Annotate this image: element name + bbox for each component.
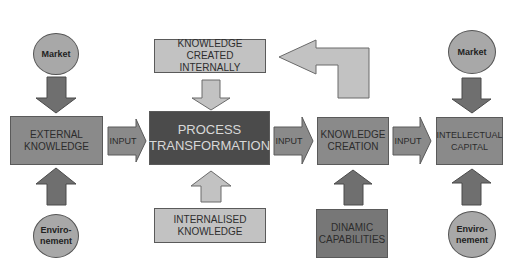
knowledge-creation-line1: KNOWLEDGE [320,129,385,141]
knowledge-creation-box: KNOWLEDGE CREATION [317,117,389,165]
external-knowledge-line1: EXTERNAL [24,129,89,141]
up-arrow-environment-right [452,169,491,205]
input-label-3: INPUT [393,136,423,146]
market-left-label: Market [41,49,70,60]
down-arrow-market-left [36,77,76,113]
environment-node-left: Enviro- nement [33,214,79,258]
knowledge-created-internally-line2: CREATED INTERNALLY [155,50,265,74]
intellectual-capital-line1: INTELLECTUAL [436,129,502,141]
intellectual-capital-line2: CAPITAL [436,141,502,153]
process-transformation-box: PROCESS TRANSFORMATION [149,111,270,165]
knowledge-created-internally-line1: KNOWLEDGE [155,38,265,50]
environment-left-line2: nement [40,236,72,247]
up-arrow-dinamic-capabilities [334,170,372,205]
dinamic-capabilities-box: DINAMIC CAPABILITIES [316,209,388,258]
market-right-label: Market [457,47,486,58]
internalised-knowledge-box: INTERNALISED KNOWLEDGE [154,208,266,243]
internalised-knowledge-line2: KNOWLEDGE [174,226,247,238]
environment-right-line1: Enviro- [456,224,488,235]
market-node-left: Market [33,33,79,75]
process-transformation-line1: PROCESS [149,122,270,138]
external-knowledge-line2: KNOWLEDGE [24,141,89,153]
up-arrow-internalised-knowledge [191,171,231,202]
dinamic-capabilities-line2: CAPABILITIES [319,234,386,246]
input-label-2: INPUT [274,136,304,146]
down-arrow-knowledge-created-internally [192,80,230,110]
knowledge-created-internally-box: KNOWLEDGE CREATED INTERNALLY [154,39,266,73]
dinamic-capabilities-line1: DINAMIC [319,222,386,234]
feedback-bent-arrow [279,40,369,98]
internalised-knowledge-line1: INTERNALISED [174,214,247,226]
process-transformation-line2: TRANSFORMATION [149,138,270,154]
market-node-right: Market [448,30,496,74]
intellectual-capital-box: INTELLECTUAL CAPITAL [436,117,503,165]
up-arrow-environment-left [36,168,76,205]
knowledge-creation-line2: CREATION [320,141,385,153]
environment-node-right: Enviro- nement [448,211,496,258]
down-arrow-market-right [452,78,491,113]
input-label-1: INPUT [108,136,138,146]
environment-right-line2: nement [456,235,488,246]
environment-left-line1: Enviro- [40,225,72,236]
external-knowledge-box: EXTERNAL KNOWLEDGE [10,116,103,165]
